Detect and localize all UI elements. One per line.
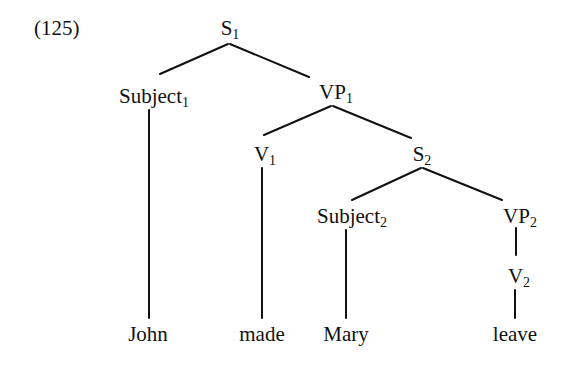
edge-vp1-s2: [333, 106, 411, 138]
node-subject2: Subject2: [317, 204, 387, 228]
edge-s2-vp2: [423, 168, 502, 200]
edge-vp1-v1: [264, 106, 331, 135]
edge-s1-vp1: [230, 44, 309, 77]
node-s2: S2: [413, 142, 432, 166]
leaf-leave: leave: [493, 322, 537, 346]
edge-s1-subject1: [160, 44, 228, 74]
example-number: (125): [34, 16, 80, 40]
node-vp1: VP1: [319, 80, 353, 104]
leaf-mary: Mary: [323, 322, 369, 346]
node-subject1: Subject1: [119, 84, 189, 108]
tree-edges: [0, 0, 576, 365]
node-vp2: VP2: [503, 204, 537, 228]
leaf-made: made: [239, 322, 284, 346]
node-v1: V1: [254, 142, 276, 166]
edge-s2-subject2: [352, 168, 421, 200]
leaf-john: John: [128, 322, 168, 346]
syntax-tree-diagram: (125) S1 Subject1 VP1 V1 S2 Subject2 VP2…: [0, 0, 576, 365]
node-s1: S1: [221, 16, 240, 40]
node-v2: V2: [508, 264, 530, 288]
